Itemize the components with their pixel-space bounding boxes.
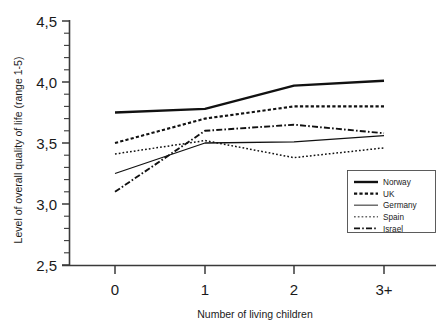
y-tick-label: 2,5 [36, 257, 57, 274]
legend-label-norway: Norway [383, 178, 412, 187]
y-tick-label: 4,0 [36, 74, 57, 91]
x-tick-label: 1 [201, 281, 209, 298]
y-tick-label: 3,0 [36, 196, 57, 213]
legend-label-germany: Germany [383, 201, 418, 210]
chart-canvas: 2,53,03,54,04,5 0123+ NorwayUKGermanySpa… [0, 0, 442, 336]
legend-label-israel: Israel [383, 225, 403, 234]
y-tick-label: 3,5 [36, 135, 57, 152]
x-tick-label: 0 [111, 281, 119, 298]
x-axis-title: Number of living children [197, 308, 313, 320]
legend-label-uk: UK [383, 190, 395, 199]
x-tick-label: 2 [290, 281, 298, 298]
y-tick-label: 4,5 [36, 13, 57, 30]
x-tick-label: 3+ [375, 281, 392, 298]
y-axis-title: Level of overall quality of life (range … [12, 57, 24, 244]
legend-label-spain: Spain [383, 213, 404, 222]
line-chart: 2,53,03,54,04,5 0123+ NorwayUKGermanySpa… [0, 0, 442, 336]
chart-legend: NorwayUKGermanySpainIsrael [348, 171, 436, 234]
